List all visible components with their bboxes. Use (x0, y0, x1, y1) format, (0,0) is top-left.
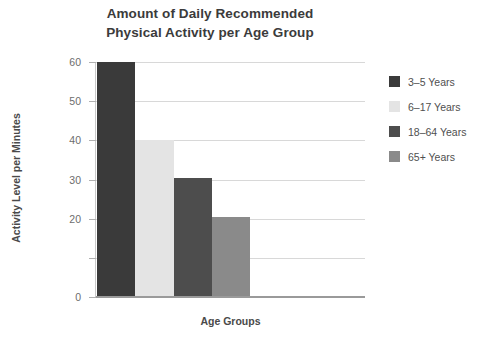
legend-item[interactable]: 3–5 Years (389, 69, 466, 94)
y-axis-tick-label: 50 (33, 95, 81, 107)
legend-swatch-icon (389, 126, 400, 137)
bar (174, 178, 212, 297)
bar (212, 217, 250, 297)
gridline (96, 101, 365, 102)
y-axis-tick-label: 60 (33, 56, 81, 68)
y-axis-tick-label: 0 (33, 291, 81, 303)
legend-item-label: 18–64 Years (408, 126, 466, 138)
gridline (96, 62, 365, 63)
y-axis-tick-label: 20 (33, 213, 81, 225)
legend-item-label: 3–5 Years (408, 76, 455, 88)
legend-item-label: 6–17 Years (408, 101, 461, 113)
x-axis-title: Age Groups (96, 315, 365, 327)
legend-swatch-icon (389, 151, 400, 162)
legend-item[interactable]: 6–17 Years (389, 94, 466, 119)
y-axis-tick-mark (89, 219, 96, 220)
legend-item-label: 65+ Years (408, 151, 455, 163)
legend-swatch-icon (389, 76, 400, 87)
y-axis-tick-mark (89, 258, 96, 259)
y-axis-tick-mark (89, 62, 96, 63)
x-axis-line (96, 296, 365, 298)
y-axis-tick-labels: 60504030200 (33, 62, 81, 297)
legend: 3–5 Years6–17 Years18–64 Years65+ Years (389, 69, 466, 169)
legend-item[interactable]: 65+ Years (389, 144, 466, 169)
plot-area (96, 62, 365, 297)
y-axis-tick-label: 40 (33, 134, 81, 146)
y-axis-tick-label: 30 (33, 174, 81, 186)
legend-swatch-icon (389, 101, 400, 112)
y-axis-tick-mark (89, 180, 96, 181)
chart-title-line-1: Amount of Daily Recommended (0, 4, 420, 23)
y-axis-tick-mark (89, 297, 96, 298)
bar (97, 62, 135, 297)
bar (135, 140, 173, 297)
y-axis-tick-mark (89, 140, 96, 141)
chart-title: Amount of Daily Recommended Physical Act… (0, 4, 420, 42)
legend-item[interactable]: 18–64 Years (389, 119, 466, 144)
y-axis-tick-mark (89, 101, 96, 102)
y-axis-title: Activity Level per Minutes (10, 98, 22, 258)
chart-title-line-2: Physical Activity per Age Group (0, 23, 420, 42)
bar-chart-figure: Amount of Daily Recommended Physical Act… (0, 0, 502, 338)
